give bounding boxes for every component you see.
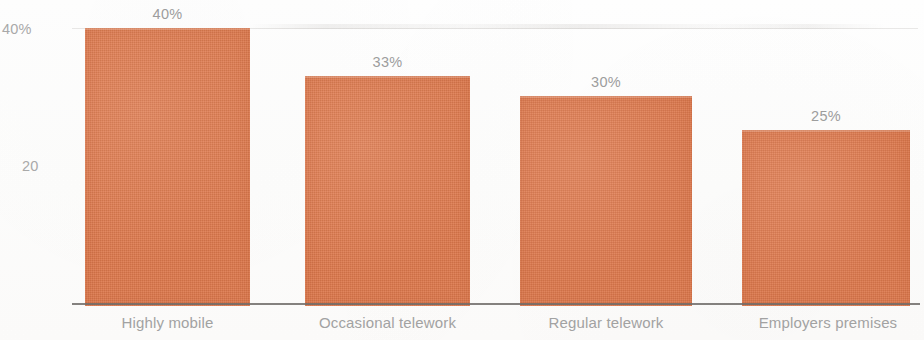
category-label-occasional-telework: Occasional telework <box>300 314 475 331</box>
value-label-employers-premises: 25% <box>742 108 910 124</box>
bar-occasional-telework[interactable] <box>305 76 470 306</box>
x-axis-line <box>72 303 920 305</box>
category-label-employers-premises: Employers premises <box>738 314 918 331</box>
value-label-regular-telework: 30% <box>520 74 692 90</box>
value-label-occasional-telework: 33% <box>305 54 470 70</box>
category-label-regular-telework: Regular telework <box>520 314 692 331</box>
bar-employers-premises[interactable] <box>742 130 910 306</box>
bar-top-highlight <box>520 96 692 98</box>
plot-area <box>0 0 924 306</box>
bar-top-highlight <box>85 28 250 30</box>
bar-top-highlight <box>742 130 910 132</box>
bar-highly-mobile[interactable] <box>85 28 250 306</box>
category-label-highly-mobile: Highly mobile <box>85 314 250 331</box>
bar-chart: 40% 20 40% 33% 30% 25% Highly mobile Occ… <box>0 0 924 340</box>
value-label-highly-mobile: 40% <box>85 6 250 22</box>
bar-top-highlight <box>305 76 470 78</box>
bar-regular-telework[interactable] <box>520 96 692 306</box>
